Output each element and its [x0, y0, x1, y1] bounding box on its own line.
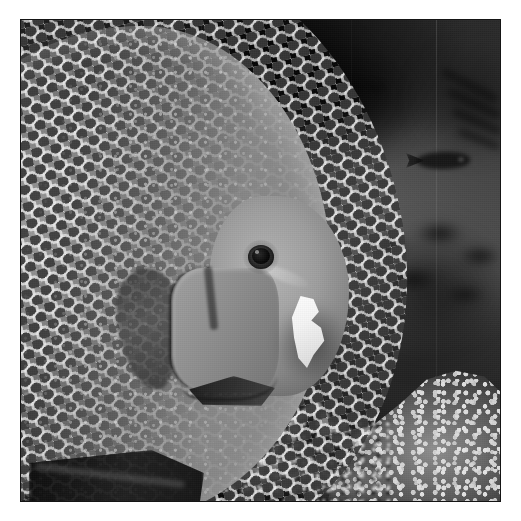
fish-eye [243, 240, 279, 274]
eye-glint [255, 250, 259, 254]
photograph: Grayscale photograph of a large gray ang… [21, 20, 500, 501]
photo-frame: Grayscale photograph of a large gray ang… [20, 19, 501, 502]
page-root: Grayscale photograph of a large gray ang… [0, 0, 521, 521]
